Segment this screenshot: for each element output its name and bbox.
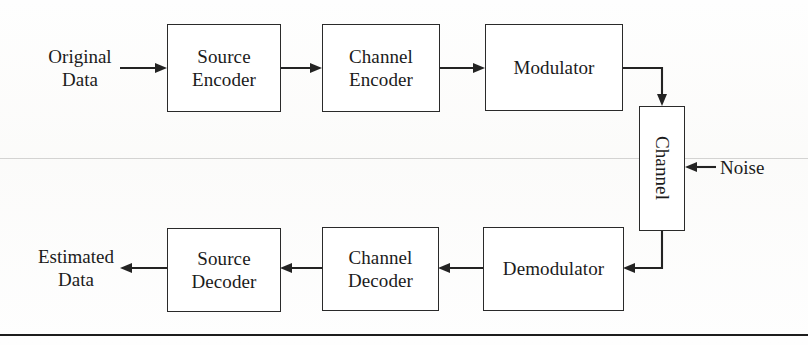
arrowhead-source-decoder-in [280, 263, 292, 273]
arrowhead-channel-noise-in [685, 162, 697, 172]
block-source-decoder-label: Source Decoder [191, 247, 256, 293]
arrowhead-channel-in [657, 94, 667, 106]
arrowhead-source-encoder-in [155, 63, 167, 73]
block-source-encoder-label: Source Encoder [192, 45, 256, 91]
label-original-data: Original Data [34, 45, 126, 91]
arrowhead-channel-encoder-in [310, 63, 322, 73]
block-demodulator-label: Demodulator [503, 257, 604, 280]
block-diagram-figure: Source Encoder Channel Encoder Modulator… [0, 0, 808, 345]
wire-channel-to-demodulator [629, 231, 662, 268]
block-channel-encoder-label: Channel Encoder [349, 45, 413, 91]
block-channel-decoder-label: Channel Decoder [348, 246, 413, 292]
arrowhead-channel-decoder-in [438, 263, 450, 273]
arrowhead-modulator-in [473, 63, 485, 73]
block-demodulator[interactable]: Demodulator [483, 227, 624, 311]
block-modulator-label: Modulator [513, 56, 594, 79]
label-noise: Noise [720, 156, 800, 179]
label-estimated-data: Estimated Data [24, 245, 128, 291]
block-source-decoder[interactable]: Source Decoder [167, 228, 281, 312]
wire-modulator-to-channel [623, 68, 662, 100]
block-channel-label: Channel [650, 136, 673, 200]
block-channel[interactable]: Channel [639, 106, 685, 231]
page-bottom-rule [0, 334, 808, 336]
block-channel-encoder[interactable]: Channel Encoder [322, 24, 440, 112]
arrowhead-demodulator-in [623, 263, 635, 273]
block-channel-decoder[interactable]: Channel Decoder [322, 227, 439, 311]
block-modulator[interactable]: Modulator [485, 24, 623, 111]
block-source-encoder[interactable]: Source Encoder [167, 24, 281, 112]
scan-fold-line [0, 158, 808, 159]
